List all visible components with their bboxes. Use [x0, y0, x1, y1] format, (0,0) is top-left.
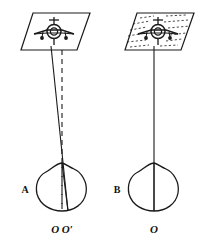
panel-b-point-label: O — [150, 223, 158, 235]
panel-a-point-label: O O′ — [51, 223, 73, 235]
figure-background — [0, 0, 202, 244]
panel-b-label: B — [114, 184, 121, 195]
figure-root: A O O′ — [0, 0, 202, 244]
panel-a-label: A — [21, 184, 29, 195]
diagram-canvas: A O O′ — [0, 0, 202, 244]
